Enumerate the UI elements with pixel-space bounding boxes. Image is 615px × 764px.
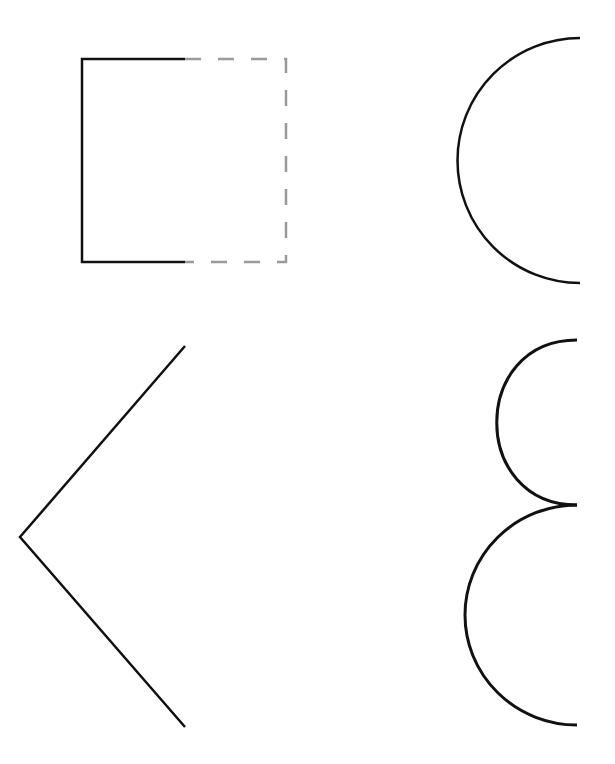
bracket-solid-edge: [82, 59, 185, 262]
chevron-left-shape: [20, 346, 185, 727]
shapes-diagram: [0, 0, 615, 764]
large-arc-lower: [465, 505, 577, 725]
large-semicircle-arc: [458, 38, 581, 283]
bracket-dashed-edge: [185, 59, 286, 262]
small-arc-upper: [497, 340, 577, 505]
